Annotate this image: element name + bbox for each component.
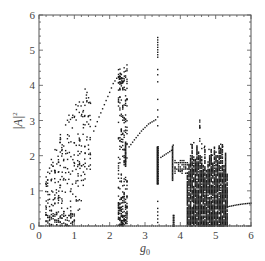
x-axis-title: g0 <box>140 241 150 257</box>
bifurcation-chart: 0123456 0123456 g0 |A|2 <box>0 0 265 261</box>
x-tick-label: 6 <box>248 229 254 241</box>
y-tick-labels: 0123456 <box>30 9 36 232</box>
x-tick-label: 0 <box>36 229 42 241</box>
y-tick-label: 3 <box>30 115 36 127</box>
x-tick-label: 4 <box>178 229 184 241</box>
y-tick-label: 5 <box>30 44 36 56</box>
y-axis-title: |A|2 <box>11 112 25 130</box>
y-tick-label: 1 <box>30 185 36 197</box>
y-tick-label: 6 <box>30 9 36 21</box>
x-tick-label: 2 <box>107 229 113 241</box>
x-tick-label: 1 <box>72 229 78 241</box>
y-tick-label: 0 <box>30 220 36 232</box>
data-points <box>39 37 252 227</box>
x-tick-label: 5 <box>213 229 219 241</box>
x-tick-label: 3 <box>142 229 148 241</box>
y-tick-label: 2 <box>30 150 36 162</box>
y-tick-label: 4 <box>30 79 36 91</box>
x-tick-labels: 0123456 <box>36 229 254 241</box>
